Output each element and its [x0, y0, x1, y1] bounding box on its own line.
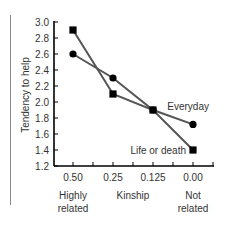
y-tick-label: 2.6: [35, 49, 49, 60]
circle-marker: [69, 50, 76, 57]
series-label-life-or-death: Life or death: [130, 145, 186, 156]
y-tick-label: 2.2: [35, 81, 49, 92]
y-tick-label: 1.6: [35, 129, 49, 140]
square-marker: [149, 106, 156, 113]
category-sublabel: related: [58, 203, 89, 214]
x-axis-label: Kinship: [117, 190, 150, 201]
circle-marker: [109, 74, 116, 81]
y-tick-label: 3.0: [35, 17, 49, 28]
circle-marker: [189, 121, 196, 128]
y-tick-label: 1.4: [35, 145, 49, 156]
square-marker: [109, 90, 116, 97]
x-tick-label: 0.00: [183, 172, 203, 183]
y-tick-label: 1.2: [35, 161, 49, 172]
category-sublabel: related: [178, 203, 209, 214]
square-marker: [69, 26, 76, 33]
series-line-life-or-death: [73, 30, 193, 150]
square-marker: [189, 146, 196, 153]
category-sublabel: Not: [185, 190, 201, 201]
x-tick-label: 0.125: [140, 172, 165, 183]
y-tick-label: 2.8: [35, 33, 49, 44]
line-chart: 1.21.41.61.82.02.22.42.62.83.00.500.250.…: [0, 0, 226, 225]
y-tick-label: 2.4: [35, 65, 49, 76]
series-label-everyday: Everyday: [167, 101, 209, 112]
series-line-everyday: [73, 54, 193, 124]
category-sublabel: Highly: [59, 190, 87, 201]
x-tick-label: 0.50: [63, 172, 83, 183]
x-tick-label: 0.25: [103, 172, 123, 183]
y-tick-label: 1.8: [35, 113, 49, 124]
y-tick-label: 2.0: [35, 97, 49, 108]
